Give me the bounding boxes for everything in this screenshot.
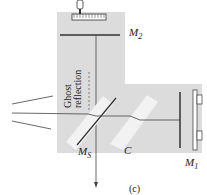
label-m2: M2 xyxy=(128,26,142,41)
michelson-interferometer-diagram: M2 M1 MS C Ghost reflection (c) xyxy=(0,0,207,195)
label-m1: M1 xyxy=(184,156,198,171)
label-reflection: reflection xyxy=(72,70,83,108)
mirror-m2-mount xyxy=(72,0,106,20)
caption: (c) xyxy=(129,183,140,195)
input-beam-lower xyxy=(12,121,51,129)
label-c: C xyxy=(124,144,132,156)
arrow-down-icon xyxy=(94,182,98,188)
input-beam-upper xyxy=(12,96,53,104)
